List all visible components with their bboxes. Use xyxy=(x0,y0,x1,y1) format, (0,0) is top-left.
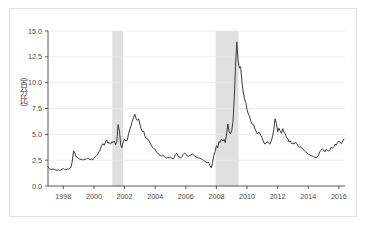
line-chart: 0.02.55.07.510.012.515.01998200020022004… xyxy=(0,0,367,226)
x-tick-label: 2010 xyxy=(239,192,255,201)
x-tick-label: 2000 xyxy=(86,192,102,201)
y-tick-label: 5.0 xyxy=(32,130,42,139)
x-tick-label: 2008 xyxy=(208,192,224,201)
y-tick-label: 10.0 xyxy=(28,78,42,87)
x-tick-label: 2016 xyxy=(331,192,347,201)
chart-figure: 0.02.55.07.510.012.515.01998200020022004… xyxy=(0,0,367,226)
x-tick-label: 2006 xyxy=(178,192,194,201)
y-tick-label: 0.0 xyxy=(32,182,42,191)
x-tick-label: 2004 xyxy=(147,192,163,201)
x-tick-label: 2002 xyxy=(117,192,133,201)
y-tick-label: 2.5 xyxy=(32,156,42,165)
x-tick-label: 1998 xyxy=(55,192,71,201)
y-tick-label: 7.5 xyxy=(32,104,42,113)
x-tick-label: 2012 xyxy=(270,192,286,201)
y-axis-title: （百分比） xyxy=(9,72,27,112)
y-tick-label: 12.5 xyxy=(28,52,42,61)
x-tick-label: 2014 xyxy=(300,192,316,201)
y-tick-label: 15.0 xyxy=(28,27,42,36)
